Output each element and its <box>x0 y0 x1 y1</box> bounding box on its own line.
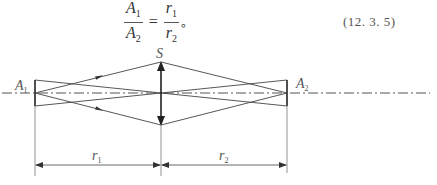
ray-arrow-lower-icon <box>95 106 103 111</box>
label-a1: A1 <box>14 78 28 95</box>
label-a2: A2 <box>295 76 309 93</box>
optics-diagram: A1 A2 S r1 r2 <box>0 0 437 185</box>
label-r1: r1 <box>92 148 101 165</box>
ray-arrow-upper-icon <box>95 75 103 80</box>
label-r2: r2 <box>219 148 228 165</box>
label-lens-s: S <box>156 46 163 61</box>
